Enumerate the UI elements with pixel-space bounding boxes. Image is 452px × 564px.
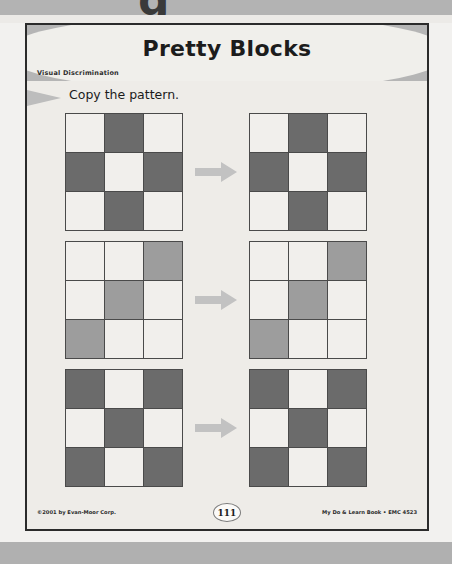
pattern-cell[interactable] bbox=[328, 409, 366, 447]
pattern-cell[interactable] bbox=[66, 370, 104, 408]
pattern-cell[interactable] bbox=[328, 281, 366, 319]
pattern-cell[interactable] bbox=[328, 114, 366, 152]
pattern-cell[interactable] bbox=[66, 242, 104, 280]
pattern-cell[interactable] bbox=[250, 242, 288, 280]
pattern-cell[interactable] bbox=[66, 409, 104, 447]
exercise-row bbox=[27, 111, 427, 233]
pattern-cell[interactable] bbox=[250, 114, 288, 152]
pattern-cell[interactable] bbox=[105, 448, 143, 486]
pattern-cell[interactable] bbox=[328, 448, 366, 486]
pattern-cell[interactable] bbox=[105, 153, 143, 191]
exercise-row bbox=[27, 239, 427, 361]
pattern-cell[interactable] bbox=[289, 114, 327, 152]
pattern-cell[interactable] bbox=[289, 320, 327, 358]
pattern-cell[interactable] bbox=[144, 153, 182, 191]
pattern-cell[interactable] bbox=[66, 281, 104, 319]
scan-gap-top bbox=[0, 15, 452, 23]
scan-strip-top: g bbox=[0, 0, 452, 15]
pattern-cell[interactable] bbox=[250, 281, 288, 319]
pattern-cell[interactable] bbox=[328, 370, 366, 408]
pattern-cell[interactable] bbox=[105, 281, 143, 319]
pattern-cell[interactable] bbox=[144, 114, 182, 152]
pattern-model-1[interactable] bbox=[65, 113, 183, 231]
pattern-cell[interactable] bbox=[144, 448, 182, 486]
pattern-copy-1[interactable] bbox=[249, 113, 367, 231]
pattern-copy-2[interactable] bbox=[249, 241, 367, 359]
pattern-cell[interactable] bbox=[105, 409, 143, 447]
pattern-cell[interactable] bbox=[144, 409, 182, 447]
instruction-text: Copy the pattern. bbox=[69, 87, 179, 102]
pattern-model-2[interactable] bbox=[65, 241, 183, 359]
pattern-cell[interactable] bbox=[250, 448, 288, 486]
pattern-cell[interactable] bbox=[328, 192, 366, 230]
pattern-cell[interactable] bbox=[250, 409, 288, 447]
pattern-cell[interactable] bbox=[289, 192, 327, 230]
pattern-cell[interactable] bbox=[66, 448, 104, 486]
pattern-cell[interactable] bbox=[328, 153, 366, 191]
arrow-right-icon bbox=[183, 367, 249, 489]
arrow-right-icon bbox=[183, 239, 249, 361]
page-subtitle: Visual Discrimination bbox=[37, 69, 119, 77]
pattern-copy-3[interactable] bbox=[249, 369, 367, 487]
pattern-cell[interactable] bbox=[105, 192, 143, 230]
pattern-cell[interactable] bbox=[66, 192, 104, 230]
scan-strip-bottom bbox=[0, 542, 452, 564]
pattern-cell[interactable] bbox=[144, 281, 182, 319]
header-banner: Pretty Blocks Visual Discrimination bbox=[27, 25, 427, 81]
pattern-cell[interactable] bbox=[250, 192, 288, 230]
pattern-cell[interactable] bbox=[144, 320, 182, 358]
pattern-cell[interactable] bbox=[289, 242, 327, 280]
footer-copyright: ©2001 by Evan-Moor Corp. bbox=[37, 509, 116, 515]
exercise-list bbox=[27, 111, 427, 489]
model-grid-wrap bbox=[27, 241, 183, 359]
pattern-cell[interactable] bbox=[328, 242, 366, 280]
pattern-cell[interactable] bbox=[105, 370, 143, 408]
pattern-cell[interactable] bbox=[289, 281, 327, 319]
exercise-row bbox=[27, 367, 427, 489]
pattern-cell[interactable] bbox=[105, 320, 143, 358]
page-number-badge: 111 bbox=[213, 503, 241, 522]
copy-grid-wrap bbox=[249, 369, 367, 487]
pattern-cell[interactable] bbox=[144, 370, 182, 408]
model-grid-wrap bbox=[27, 113, 183, 231]
partial-glyph-text: g bbox=[138, 0, 170, 15]
pattern-cell[interactable] bbox=[144, 242, 182, 280]
pattern-cell[interactable] bbox=[289, 448, 327, 486]
pattern-model-3[interactable] bbox=[65, 369, 183, 487]
page-title: Pretty Blocks bbox=[27, 36, 427, 61]
pattern-cell[interactable] bbox=[66, 153, 104, 191]
pattern-cell[interactable] bbox=[66, 114, 104, 152]
pattern-cell[interactable] bbox=[289, 370, 327, 408]
triangle-right-icon bbox=[27, 90, 61, 106]
pattern-cell[interactable] bbox=[328, 320, 366, 358]
pattern-cell[interactable] bbox=[105, 242, 143, 280]
pattern-cell[interactable] bbox=[289, 153, 327, 191]
worksheet-page: Pretty Blocks Visual Discrimination Copy… bbox=[25, 23, 429, 531]
model-grid-wrap bbox=[27, 369, 183, 487]
arrow-right-icon bbox=[183, 111, 249, 233]
pattern-cell[interactable] bbox=[66, 320, 104, 358]
pattern-cell[interactable] bbox=[144, 192, 182, 230]
page-footer: ©2001 by Evan-Moor Corp. 111 My Do & Lea… bbox=[27, 503, 427, 525]
copy-grid-wrap bbox=[249, 241, 367, 359]
instruction-row: Copy the pattern. bbox=[27, 83, 427, 111]
copy-grid-wrap bbox=[249, 113, 367, 231]
pattern-cell[interactable] bbox=[105, 114, 143, 152]
pattern-cell[interactable] bbox=[289, 409, 327, 447]
pattern-cell[interactable] bbox=[250, 320, 288, 358]
footer-source: My Do & Learn Book • EMC 4523 bbox=[322, 509, 417, 515]
pattern-cell[interactable] bbox=[250, 153, 288, 191]
pattern-cell[interactable] bbox=[250, 370, 288, 408]
